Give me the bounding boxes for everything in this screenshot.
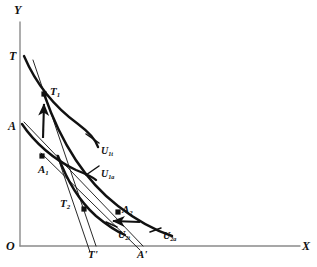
curve-U2a bbox=[44, 94, 172, 236]
subscript: 2 bbox=[129, 209, 132, 216]
curve-label-U1t: U1t bbox=[101, 146, 113, 156]
curve-label-U2t: U2t bbox=[118, 230, 130, 240]
subscript: 1 bbox=[57, 91, 60, 98]
y-axis-label: Y bbox=[14, 4, 21, 16]
subscript: 2 bbox=[67, 203, 70, 210]
origin-label: O bbox=[6, 240, 15, 252]
intercept-label-T: T bbox=[9, 50, 16, 62]
point-label-A1: A1 bbox=[38, 164, 49, 175]
point-marker-T1 bbox=[41, 91, 46, 96]
indifference-curve-group bbox=[22, 56, 172, 236]
x-axis-label: X bbox=[302, 240, 310, 252]
curve-label-U1a: U1a bbox=[101, 169, 114, 179]
figure-canvas bbox=[0, 0, 317, 267]
subscript: 1t bbox=[108, 150, 113, 157]
intercept-label-T-prime: T' bbox=[88, 249, 98, 260]
intercept-label-A-prime: A' bbox=[137, 249, 147, 260]
leader-leader-U1t bbox=[86, 134, 99, 143]
intercept-label-A: A bbox=[8, 120, 16, 132]
curve-label-U2a: U2a bbox=[163, 231, 176, 241]
point-label-A2: A2 bbox=[122, 204, 133, 215]
point-marker-A2 bbox=[115, 209, 120, 214]
subscript: 2t bbox=[125, 234, 130, 241]
arrow-arrow-left-to-U2t bbox=[113, 221, 140, 222]
subscript: 1 bbox=[45, 169, 48, 176]
budget-line-autarky-price-line bbox=[24, 122, 143, 246]
arrow-arrow-up-to-T1 bbox=[43, 104, 44, 138]
subscript: 2a bbox=[170, 235, 176, 242]
point-label-T1: T1 bbox=[50, 86, 60, 97]
point-label-T2: T2 bbox=[60, 198, 70, 209]
leader-leader-U1a bbox=[86, 166, 99, 175]
subscript: 1a bbox=[108, 173, 114, 180]
indifference-curve-figure: Y X O T A T' A' T1 A1 T2 A2 U1t U1a U2t … bbox=[0, 0, 317, 267]
point-marker-A1 bbox=[39, 153, 44, 158]
point-marker-T2 bbox=[81, 206, 86, 211]
